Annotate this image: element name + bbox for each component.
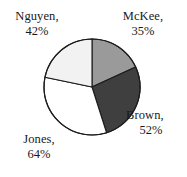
slice-label-brown: Brown, 52% [126,108,184,138]
slice-label-jones: Jones, 64% [8,132,70,162]
slice-label-mckee-name: McKee, [112,9,174,24]
slice-label-brown-name: Brown, [126,108,184,123]
slice-label-mckee-value: 35% [112,24,174,39]
slice-label-mckee: McKee, 35% [112,9,174,39]
slice-label-jones-name: Jones, [8,132,70,147]
slice-label-nguyen-name: Nguyen, [6,9,68,24]
pie-chart: Nguyen, 42% McKee, 35% Brown, 52% Jones,… [0,0,187,177]
slice-label-brown-value: 52% [126,123,184,138]
slice-label-jones-value: 64% [8,147,70,162]
slice-label-nguyen-value: 42% [6,24,68,39]
slice-label-nguyen: Nguyen, 42% [6,9,68,39]
